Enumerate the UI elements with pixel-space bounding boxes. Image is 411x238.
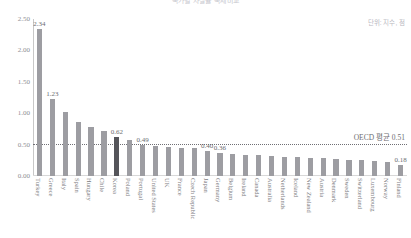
x-axis-category-labels: TurkeyGreeceItalySpainHungaryChileKoreaP… (33, 178, 407, 238)
category-label: Sweden (344, 178, 351, 199)
bar[interactable] (88, 127, 93, 176)
bar[interactable] (385, 162, 390, 176)
category-label: Korea (112, 178, 119, 194)
category-label: Poland (125, 178, 132, 196)
category-label: Ireland (241, 178, 248, 196)
y-axis-tick-label: 0.50 (18, 141, 30, 149)
bar-item[interactable]: 0.49 (140, 19, 145, 176)
bar-item[interactable]: 0.18 (398, 19, 403, 176)
bar[interactable] (153, 146, 158, 176)
category-label: Portugal (138, 178, 145, 200)
category-label: Greece (48, 178, 55, 196)
y-axis-tick-label: 2.00 (18, 46, 30, 54)
bar-value-label: 0.40 (201, 142, 213, 150)
bar-item[interactable] (76, 19, 81, 176)
bar-item[interactable] (127, 19, 132, 176)
bar-item[interactable] (166, 19, 171, 176)
bar[interactable] (321, 158, 326, 176)
y-axis-tick-label: 1.50 (18, 78, 30, 86)
category-label: Netherlands (280, 178, 287, 209)
bar[interactable] (192, 148, 197, 176)
y-axis-tick-label: 0.00 (18, 172, 30, 180)
bar-item[interactable] (308, 19, 313, 176)
y-axis-tick-label: 2.50 (18, 15, 30, 23)
bar[interactable] (308, 158, 313, 176)
bar-value-label: 2.34 (33, 20, 45, 28)
bar[interactable] (269, 156, 274, 176)
bar[interactable] (217, 153, 222, 176)
bar[interactable] (63, 112, 68, 176)
category-label: Australia (267, 178, 274, 202)
bar-item[interactable] (179, 19, 184, 176)
bar-value-label: 0.18 (394, 156, 406, 164)
category-label: Turkey (35, 178, 42, 197)
bar-item[interactable] (256, 19, 261, 176)
category-label: Germany (215, 178, 222, 202)
bar[interactable] (333, 159, 338, 176)
bar-item[interactable] (282, 19, 287, 176)
category-label: France (177, 178, 184, 196)
bar-item[interactable] (63, 19, 68, 176)
bar-item[interactable] (153, 19, 158, 176)
bar[interactable] (282, 157, 287, 176)
bar-item[interactable] (243, 19, 248, 176)
category-label: Chile (99, 178, 106, 192)
bar-item[interactable] (346, 19, 351, 176)
bar-item[interactable] (101, 19, 106, 176)
bar[interactable] (346, 160, 351, 176)
category-label: Austria (319, 178, 326, 197)
category-label: Czech Republic (190, 178, 197, 219)
bar-item[interactable]: 0.62 (114, 19, 119, 176)
bar[interactable] (50, 99, 55, 176)
bar[interactable] (256, 155, 261, 176)
bar[interactable] (230, 154, 235, 176)
bar[interactable] (359, 160, 364, 176)
bar-item[interactable] (359, 19, 364, 176)
bar[interactable] (372, 161, 377, 176)
bar-value-label: 0.49 (136, 136, 148, 144)
bar[interactable] (205, 151, 210, 176)
bar-item[interactable]: 1.23 (50, 19, 55, 176)
bar-series: 2.341.230.620.490.400.360.18 (33, 19, 407, 176)
bar-item[interactable] (321, 19, 326, 176)
bar-item[interactable] (385, 19, 390, 176)
category-label: Norway (383, 178, 390, 199)
category-label: Belgium (228, 178, 235, 200)
y-axis-tick-label: 1.00 (18, 109, 30, 117)
plot-area: 0.000.501.001.502.002.50 OECD 평균 0.51 2.… (33, 19, 407, 176)
category-label: Switzerland (357, 178, 364, 209)
bar[interactable] (140, 145, 145, 176)
category-label: Denmark (331, 178, 338, 202)
bar-value-label: 0.62 (111, 128, 123, 136)
bar-item[interactable] (333, 19, 338, 176)
category-label: Italy (61, 178, 68, 190)
bar-item[interactable] (295, 19, 300, 176)
bar-item[interactable] (230, 19, 235, 176)
category-label: Canada (254, 178, 261, 198)
bar-item[interactable] (192, 19, 197, 176)
bar-item[interactable]: 2.34 (37, 19, 42, 176)
bar[interactable] (398, 165, 403, 176)
bar-item[interactable] (88, 19, 93, 176)
bar-item[interactable] (372, 19, 377, 176)
bar-item[interactable]: 0.40 (205, 19, 210, 176)
category-label: United States (151, 178, 158, 213)
category-label: Finland (396, 178, 403, 198)
bar[interactable] (179, 148, 184, 176)
bar-item[interactable] (269, 19, 274, 176)
bar[interactable] (127, 140, 132, 176)
bar[interactable] (101, 131, 106, 176)
bar[interactable] (37, 29, 42, 176)
bar-value-label: 0.36 (214, 144, 226, 152)
bar[interactable] (243, 155, 248, 176)
bar[interactable] (76, 122, 81, 176)
category-label: Iceland (293, 178, 300, 197)
bar-item[interactable]: 0.36 (217, 19, 222, 176)
category-label: Luxembourg (370, 178, 377, 211)
bar[interactable] (295, 157, 300, 176)
bar[interactable] (166, 147, 171, 176)
category-label: Japan (203, 178, 210, 193)
category-label: Spain (74, 178, 81, 193)
bar[interactable] (114, 137, 119, 176)
chart-title: 국가별 자살률 국제비교 (0, 0, 411, 4)
